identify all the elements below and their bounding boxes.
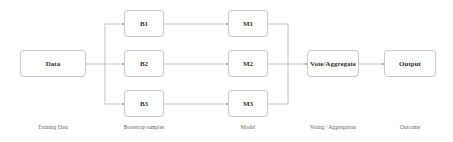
node-b1: B1	[124, 10, 164, 37]
node-b2: B2	[124, 50, 164, 77]
node-m1: M1	[228, 10, 268, 37]
node-data: Data	[20, 50, 86, 77]
node-m2: M2	[228, 50, 268, 77]
node-b3: B3	[124, 90, 164, 117]
node-m3: M3	[228, 90, 268, 117]
caption-voting-aggregation: Voting / Aggregation	[293, 124, 373, 130]
caption-training-data: Training Data	[13, 124, 93, 130]
caption-outcome: Outcome	[370, 124, 450, 130]
caption-bootstrap-samples: Bootstrap samples	[104, 124, 184, 130]
node-vote-aggregate: Vote/Aggregate	[307, 50, 359, 77]
node-output: Output	[384, 50, 436, 77]
caption-model: Model	[208, 124, 288, 130]
